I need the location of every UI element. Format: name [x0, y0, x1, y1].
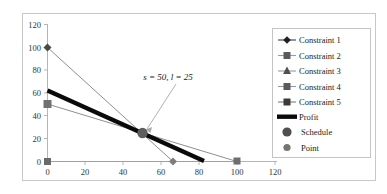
legend-label-constraint-1: Constraint 1 [299, 35, 341, 45]
marker-constraint-4-start [44, 158, 51, 165]
square-marker-icon [284, 99, 291, 106]
square-marker-icon [284, 52, 291, 59]
annotation-leader-line [147, 84, 176, 129]
legend-item-schedule[interactable]: Schedule [282, 127, 332, 137]
series-line-constraint-1 [48, 48, 174, 162]
marker-constraint-2-end [234, 158, 241, 165]
y-tick-label-0: 0 [37, 157, 41, 167]
x-tick-label-60: 60 [157, 167, 166, 177]
marker-constraint-2-start [44, 100, 52, 108]
annotation-label: s = 50, l = 25 [143, 72, 193, 82]
series-line-profit [48, 91, 205, 162]
y-tick-label-100: 100 [28, 43, 41, 53]
x-tick-label-120: 120 [269, 167, 282, 177]
legend-label-constraint-3: Constraint 3 [299, 66, 341, 76]
thick-line-marker-icon [277, 115, 297, 119]
square-marker-icon [284, 83, 291, 90]
x-axis-ticks [48, 162, 276, 166]
large-circle-marker-icon [282, 127, 291, 136]
y-tick-label-80: 80 [33, 65, 42, 75]
marker-schedule-point [137, 128, 147, 138]
x-tick-label-20: 20 [81, 167, 90, 177]
x-tick-label-80: 80 [195, 167, 204, 177]
chart-plot-area: 0 20 40 60 80 100 120 0 20 40 60 80 100 … [0, 0, 387, 194]
y-tick-label-40: 40 [33, 111, 42, 121]
legend-label-profit: Profit [299, 112, 319, 122]
y-tick-label-20: 20 [33, 134, 42, 144]
legend-box [273, 29, 371, 158]
small-circle-marker-icon [283, 144, 290, 151]
x-tick-label-0: 0 [45, 167, 49, 177]
legend-label-schedule: Schedule [301, 127, 332, 137]
legend-item-constraint-5[interactable]: Constraint 5 [278, 97, 341, 107]
y-tick-label-60: 60 [33, 88, 42, 98]
legend-label-constraint-2: Constraint 2 [299, 51, 341, 61]
legend-label-constraint-4: Constraint 4 [299, 82, 342, 92]
legend-label-constraint-5: Constraint 5 [299, 97, 341, 107]
legend-label-point: Point [301, 143, 320, 153]
x-tick-label-40: 40 [119, 167, 128, 177]
y-tick-label-120: 120 [28, 20, 41, 30]
x-tick-label-100: 100 [231, 167, 244, 177]
chart-figure: 0 20 40 60 80 100 120 0 20 40 60 80 100 … [0, 0, 387, 194]
legend-item-constraint-2[interactable]: Constraint 2 [278, 51, 341, 61]
legend-item-constraint-4[interactable]: Constraint 4 [278, 82, 342, 92]
